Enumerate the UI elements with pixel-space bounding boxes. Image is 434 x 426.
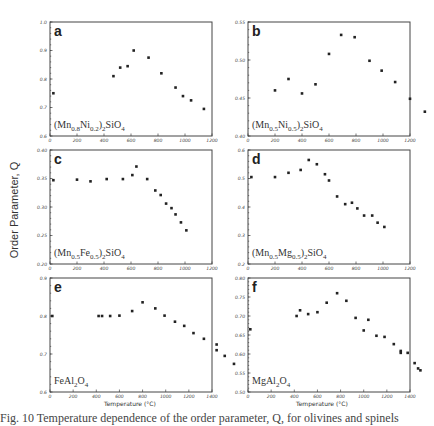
data-point: [328, 179, 331, 182]
data-point: [163, 314, 166, 317]
data-point: [363, 214, 366, 217]
data-point: [371, 214, 374, 217]
data-point: [89, 180, 92, 183]
data-point: [160, 72, 163, 75]
x-tick-label: 1200: [183, 394, 195, 399]
panel-formula: FeAl2O4: [54, 375, 88, 389]
data-point: [52, 179, 55, 182]
data-point: [101, 315, 104, 318]
panel-formula: (Mn0.5Ni0.5)2SiO4: [252, 119, 323, 133]
data-point: [299, 169, 302, 172]
data-point: [192, 332, 195, 335]
data-point: [307, 159, 310, 162]
x-tick-label: 1000: [160, 394, 172, 399]
data-point: [174, 213, 177, 216]
data-point: [295, 315, 298, 318]
data-point: [383, 226, 386, 229]
y-tick-label: 0.4: [238, 205, 245, 210]
data-point: [417, 367, 420, 370]
x-tick-label: 1400: [404, 394, 416, 399]
data-point: [375, 334, 378, 337]
data-point: [345, 300, 348, 303]
data-point: [314, 83, 317, 86]
data-point: [299, 309, 302, 312]
data-point: [328, 53, 331, 56]
y-tick-label: 0.65: [235, 333, 245, 338]
data-point: [368, 59, 371, 62]
data-point: [413, 362, 416, 365]
data-point: [215, 343, 218, 346]
panel-e: 02004006008001000120014000.60.70.80.9eFe…: [28, 264, 218, 392]
x-tick-label: 200: [69, 394, 78, 399]
y-tick-label: 0.60: [235, 352, 245, 357]
data-point: [301, 92, 304, 95]
data-point: [118, 314, 121, 317]
y-tick-label: 0.70: [235, 314, 245, 319]
data-point: [190, 99, 193, 102]
data-point: [324, 173, 327, 176]
x-tick-label: 400: [92, 394, 101, 399]
x-tick-label: 800: [336, 394, 345, 399]
data-point: [203, 108, 206, 111]
data-point: [336, 292, 339, 295]
panel-letter: e: [54, 279, 62, 295]
x-tick-label: 600: [115, 394, 124, 399]
y-tick-label: 0.6: [40, 390, 47, 395]
x-tick-label: 600: [313, 394, 322, 399]
data-point: [250, 176, 253, 179]
data-point: [336, 195, 339, 198]
data-point: [185, 229, 188, 232]
data-point: [215, 349, 218, 352]
x-tick-label: 0: [247, 394, 250, 399]
y-tick-label: 0.80: [235, 276, 245, 281]
y-tick-label: 0.40: [37, 148, 47, 153]
data-point: [132, 49, 135, 52]
data-point: [287, 78, 290, 81]
data-point: [376, 221, 379, 224]
data-point: [51, 315, 54, 318]
y-tick-label: 0.45: [235, 96, 245, 101]
panel-a: 0200400600800100012000.60.70.80.91.0a(Mn…: [28, 8, 218, 136]
panel-letter: c: [54, 151, 62, 167]
data-point: [394, 81, 397, 84]
y-tick-label: 0.9: [40, 276, 47, 281]
y-tick-label: 0.7: [40, 352, 47, 357]
data-point: [147, 56, 150, 59]
x-tick-label: 1200: [381, 394, 393, 399]
y-tick-label: 0.8: [40, 314, 47, 319]
x-axis-title-left: Temperature (°C): [104, 400, 156, 407]
x-axis-title-right: Temperature (°C): [296, 400, 348, 407]
y-axis-title: Order Parameter, Q: [4, 150, 24, 270]
data-point: [356, 207, 359, 210]
data-point: [287, 172, 290, 175]
data-point: [135, 165, 138, 168]
figure-caption: Fig. 10 Temperature dependence of the or…: [0, 411, 399, 426]
data-point: [316, 311, 319, 314]
x-tick-label: 800: [138, 394, 147, 399]
y-tick-label: 1.0: [40, 20, 47, 25]
panel-formula: (Mn0.5Fe0.5)2SiO4: [54, 247, 125, 261]
panel-letter: a: [54, 23, 62, 39]
data-point: [354, 317, 357, 320]
data-point: [409, 97, 412, 100]
data-point: [131, 174, 134, 177]
data-point: [316, 163, 319, 166]
y-tick-label: 0.5: [238, 176, 245, 181]
data-point: [180, 221, 183, 224]
data-point: [174, 86, 177, 89]
y-tick-label: 0.50: [235, 58, 245, 63]
data-point: [154, 189, 157, 192]
data-point: [109, 315, 112, 318]
data-point: [307, 313, 310, 316]
data-point: [383, 336, 386, 339]
data-point: [183, 325, 186, 328]
data-point: [249, 328, 252, 331]
y-tick-label: 0.25: [37, 233, 47, 238]
data-point: [105, 178, 108, 181]
data-point: [325, 301, 328, 304]
data-point: [182, 95, 185, 98]
data-point: [274, 89, 277, 92]
data-point: [52, 92, 55, 95]
panel-formula: (Mn0.5Mg0.5)2SiO4: [252, 247, 327, 261]
panel-formula: MgAl2O4: [252, 375, 290, 389]
